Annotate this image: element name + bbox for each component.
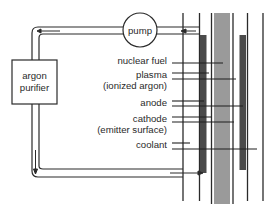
anode-bar-right <box>240 35 247 170</box>
argon-purifier: argon purifier <box>12 60 57 104</box>
purifier-label-line1: argon <box>22 70 47 81</box>
label-cathode: cathode <box>133 113 167 124</box>
pump: pump <box>123 13 157 47</box>
anode-bar-left <box>200 35 207 173</box>
label-plasma-sub: (ionized argon) <box>103 80 167 91</box>
label-anode: anode <box>140 97 167 108</box>
label-coolant: coolant <box>136 139 167 150</box>
component-labels: nuclear fuel plasma (ionized argon) anod… <box>97 55 167 150</box>
nuclear-fuel-bar <box>214 13 230 204</box>
purifier-label-line2: purifier <box>20 82 50 93</box>
thermionic-converter-diagram: pump argon purifier nuclear fuel plasma … <box>0 0 273 217</box>
label-cathode-sub: (emitter surface) <box>97 124 167 135</box>
label-plasma: plasma <box>136 69 168 80</box>
label-nuclear-fuel: nuclear fuel <box>117 55 167 66</box>
flow-arrows <box>34 29 204 175</box>
pump-label: pump <box>128 25 152 36</box>
